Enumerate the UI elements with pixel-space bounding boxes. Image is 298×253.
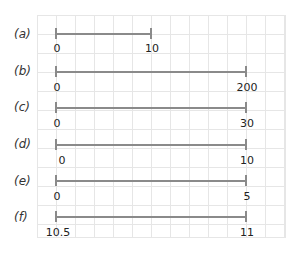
end-value: 5	[244, 190, 251, 203]
segment	[56, 180, 246, 182]
segment	[56, 107, 246, 109]
row-label: (e)	[14, 174, 42, 188]
end-tick	[245, 66, 247, 77]
end-tick	[245, 102, 247, 113]
end-value: 200	[237, 81, 258, 94]
end-tick	[245, 211, 247, 222]
start-value: 0	[54, 81, 61, 94]
start-value: 0	[59, 154, 66, 167]
start-value: 0	[54, 190, 61, 203]
segment	[56, 216, 246, 218]
start-value: 10.5	[46, 226, 71, 239]
end-value: 11	[240, 226, 254, 239]
end-tick	[245, 139, 247, 150]
row-label: (f)	[14, 210, 42, 224]
segment	[56, 144, 246, 146]
row-label: (c)	[14, 100, 42, 114]
segment	[56, 33, 151, 35]
row-label: (d)	[14, 137, 42, 151]
row-label: (a)	[14, 27, 42, 41]
segment	[56, 71, 246, 73]
end-tick	[245, 175, 247, 186]
end-value: 10	[240, 154, 254, 167]
end-value: 30	[240, 117, 254, 130]
start-value: 0	[54, 42, 61, 55]
row-label: (b)	[14, 64, 42, 78]
start-value: 0	[54, 117, 61, 130]
end-tick	[150, 28, 152, 39]
end-value: 10	[145, 42, 159, 55]
